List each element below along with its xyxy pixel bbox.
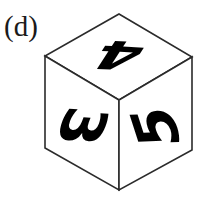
figure-panel: (d) 4 3 5 — [0, 0, 200, 197]
cube-right-face-digit-group: 5 — [116, 106, 197, 148]
isometric-cube-figure: 4 3 5 — [0, 0, 200, 197]
cube-right-face-digit: 5 — [116, 106, 197, 148]
